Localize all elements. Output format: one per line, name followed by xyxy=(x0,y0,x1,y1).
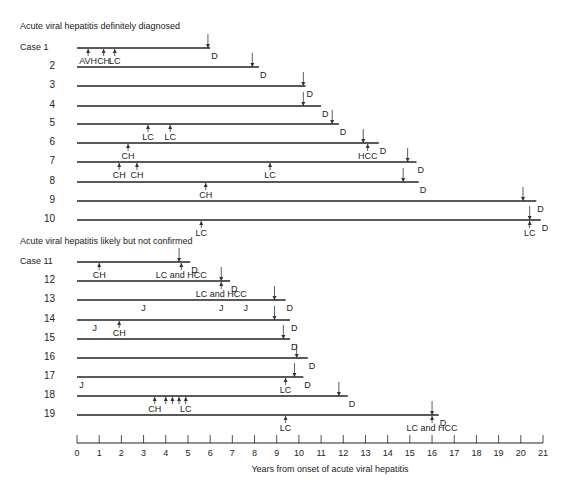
x-axis-tick-label: 10 xyxy=(294,448,304,458)
event-label: AVH xyxy=(79,56,97,66)
case-label: 13 xyxy=(44,293,56,304)
event-arrow-icon-head xyxy=(135,163,139,167)
event-label: CH xyxy=(148,404,161,414)
case-label: 10 xyxy=(44,213,56,224)
event-arrow-icon-head xyxy=(170,397,174,401)
event-label: LC xyxy=(264,170,276,180)
death-label: D xyxy=(287,303,294,313)
x-axis-tick-label: 16 xyxy=(427,448,437,458)
case-label: 17 xyxy=(44,370,56,381)
x-axis-tick-label: 20 xyxy=(516,448,526,458)
event-arrow-icon-head xyxy=(204,183,208,187)
event-arrow-icon-head xyxy=(177,397,181,401)
case-label: 8 xyxy=(49,175,55,186)
event-arrow-icon-head xyxy=(168,125,172,129)
event-arrow-icon-head xyxy=(366,144,370,148)
x-axis-tick-label: 3 xyxy=(141,448,146,458)
case-label: 12 xyxy=(44,274,56,285)
section-title: Acute viral hepatitis likely but not con… xyxy=(20,236,193,246)
event-arrow-icon-head xyxy=(199,221,203,225)
event-label: LC and HCC xyxy=(156,270,208,280)
event-label: LC and HCC xyxy=(407,423,459,433)
event-label: J xyxy=(243,303,248,313)
x-axis-tick-label: 18 xyxy=(471,448,481,458)
death-label: D xyxy=(380,146,387,156)
x-axis-tick-label: 2 xyxy=(119,448,124,458)
event-arrow-icon-head xyxy=(284,416,288,420)
event-label: LC xyxy=(180,404,192,414)
event-arrow-icon-head xyxy=(153,397,157,401)
x-axis-tick-label: 17 xyxy=(449,448,459,458)
x-axis-tick-label: 4 xyxy=(163,448,168,458)
event-arrow-icon-head xyxy=(97,263,101,267)
event-arrow-icon-head xyxy=(219,282,223,286)
case-label: 4 xyxy=(49,99,55,110)
death-label: D xyxy=(307,89,314,99)
event-arrow-icon-head xyxy=(528,221,532,225)
timeline-diagram: Acute viral hepatitis definitely diagnos… xyxy=(0,0,567,480)
section-title: Acute viral hepatitis definitely diagnos… xyxy=(20,21,180,31)
x-axis-tick-label: 8 xyxy=(252,448,257,458)
event-label: CH xyxy=(199,190,212,200)
death-label: D xyxy=(542,223,549,233)
case-label: 15 xyxy=(44,332,56,343)
event-label: CH xyxy=(130,170,143,180)
death-label: D xyxy=(291,323,298,333)
case-label: 9 xyxy=(49,194,55,205)
x-axis-tick-label: 14 xyxy=(383,448,393,458)
event-label: CH xyxy=(93,270,106,280)
x-axis-tick-label: 12 xyxy=(338,448,348,458)
event-arrow-icon-head xyxy=(102,49,106,53)
x-axis-tick-label: 5 xyxy=(185,448,190,458)
death-label: D xyxy=(309,361,316,371)
case-label: 19 xyxy=(44,408,56,419)
death-label: D xyxy=(418,165,425,175)
event-label: HCC xyxy=(358,151,378,161)
death-label: D xyxy=(304,380,311,390)
case-label: 2 xyxy=(49,60,55,71)
x-axis-tick-label: 13 xyxy=(360,448,370,458)
x-axis-tick-label: 19 xyxy=(494,448,504,458)
event-arrow-icon-head xyxy=(86,49,90,53)
case-label: 14 xyxy=(44,313,56,324)
event-label: LC xyxy=(280,423,292,433)
event-arrow-icon-head xyxy=(117,163,121,167)
event-arrow-icon-head xyxy=(430,416,434,420)
case-label: Case 11 xyxy=(20,256,53,266)
event-label: LC xyxy=(109,56,121,66)
case-label: 5 xyxy=(49,117,55,128)
event-label: LC xyxy=(164,132,176,142)
event-arrow-icon-head xyxy=(284,378,288,382)
event-label: CH xyxy=(122,151,135,161)
event-label: LC xyxy=(196,228,208,238)
x-axis-label: Years from onset of acute viral hepatiti… xyxy=(251,464,409,474)
event-label: J xyxy=(93,323,98,333)
event-arrow-icon-head xyxy=(164,397,168,401)
x-axis-tick-label: 0 xyxy=(74,448,79,458)
event-label: LC xyxy=(524,228,536,238)
death-label: D xyxy=(537,204,544,214)
event-arrow-icon-head xyxy=(268,163,272,167)
event-arrow-icon-head xyxy=(117,321,121,325)
case-label: 16 xyxy=(44,351,56,362)
x-axis-tick-label: 11 xyxy=(316,448,325,458)
event-label: J xyxy=(79,380,84,390)
x-axis-tick-label: 9 xyxy=(274,448,279,458)
event-arrow-icon-head xyxy=(126,144,130,148)
death-label: D xyxy=(340,127,347,137)
death-label: D xyxy=(211,51,218,61)
case-label: 7 xyxy=(49,155,55,166)
death-label: D xyxy=(420,185,427,195)
case-label: 18 xyxy=(44,389,56,400)
event-label: CH xyxy=(113,170,126,180)
event-label: LC xyxy=(142,132,154,142)
case-label: 6 xyxy=(49,136,55,147)
x-axis-tick-label: 6 xyxy=(208,448,213,458)
event-arrow-icon-head xyxy=(184,397,188,401)
case-label: 3 xyxy=(49,79,55,90)
event-label: J xyxy=(141,303,146,313)
death-label: D xyxy=(349,399,356,409)
death-label: D xyxy=(260,70,267,80)
event-label: CH xyxy=(113,328,126,338)
event-arrow-icon-head xyxy=(179,263,183,267)
